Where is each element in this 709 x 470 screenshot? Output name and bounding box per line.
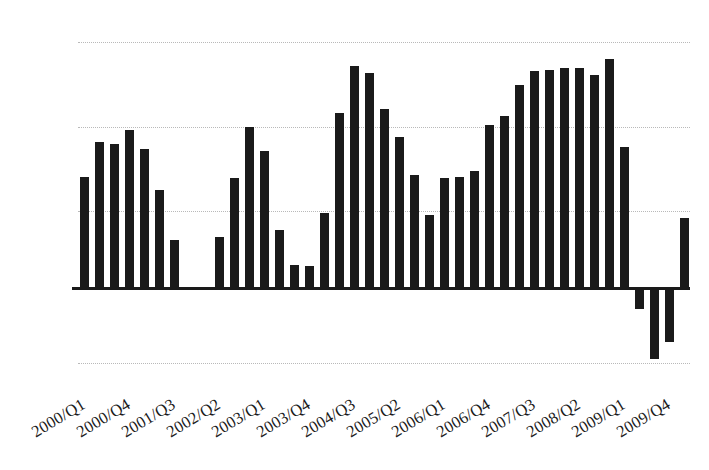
x-axis-tick-labels: 2000/Q12000/Q42001/Q32002/Q22003/Q12003/… xyxy=(0,0,709,470)
bar-chart: 7.5 5 2.5 0 -2.5 2000/Q12000/Q42001/Q320… xyxy=(0,0,709,470)
